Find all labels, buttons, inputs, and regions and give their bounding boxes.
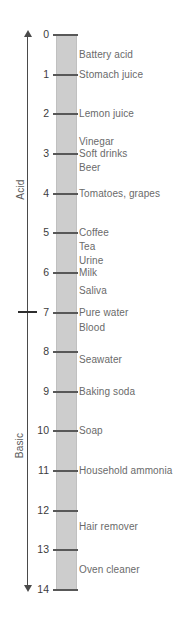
ph-tick-mark bbox=[53, 74, 78, 76]
ph-tick-mark bbox=[53, 391, 78, 393]
ph-tick-mark bbox=[53, 153, 78, 155]
substance-label: Milk bbox=[79, 267, 97, 278]
ph-tick-mark bbox=[53, 272, 78, 274]
ph-tick-mark bbox=[53, 193, 78, 195]
substance-label: Urine bbox=[79, 255, 103, 266]
substance-label: Blood bbox=[79, 322, 105, 333]
ph-tick-mark bbox=[53, 232, 78, 234]
ph-tick-label: 13 bbox=[37, 543, 49, 555]
substance-label: Beer bbox=[79, 162, 101, 173]
ph-tick-label: 8 bbox=[43, 345, 49, 357]
substance-label: Household ammonia bbox=[79, 465, 172, 476]
substance-label: Saliva bbox=[79, 285, 107, 296]
axis-region-label-acid-text: Acid bbox=[14, 179, 25, 199]
substance-label: Soft drinks bbox=[79, 148, 127, 159]
substance-label: Tea bbox=[79, 241, 95, 252]
ph-tick-label: 7 bbox=[43, 306, 49, 318]
ph-scale-diagram: Acid Basic 01234567891011121314 Battery … bbox=[0, 0, 187, 618]
substance-label: Lemon juice bbox=[79, 108, 134, 119]
substance-label: Baking soda bbox=[79, 386, 135, 397]
ph-tick-label: 9 bbox=[43, 385, 49, 397]
ph-tick-mark bbox=[53, 589, 78, 591]
ph-tick-mark bbox=[53, 312, 78, 314]
ph-tick-mark bbox=[53, 430, 78, 432]
neutral-point-marker bbox=[18, 311, 37, 313]
substance-label: Stomach juice bbox=[79, 69, 143, 80]
ph-tick-label: 1 bbox=[43, 68, 49, 80]
substance-label: Hair remover bbox=[79, 521, 138, 532]
ph-tick-mark bbox=[53, 351, 78, 353]
axis-arrow-down-icon bbox=[24, 585, 32, 592]
ph-tick-label: 4 bbox=[43, 187, 49, 199]
substance-label: Oven cleaner bbox=[79, 564, 140, 575]
ph-tick-label: 11 bbox=[38, 464, 49, 476]
axis-region-label-basic: Basic bbox=[0, 440, 40, 451]
ph-tick-label: 12 bbox=[37, 504, 49, 516]
ph-tick-label: 3 bbox=[43, 147, 49, 159]
substance-label: Battery acid bbox=[79, 49, 133, 60]
substance-label: Soap bbox=[79, 425, 103, 436]
ph-tick-label: 2 bbox=[43, 107, 49, 119]
axis-region-label-basic-text: Basic bbox=[14, 433, 25, 458]
ph-tick-label: 6 bbox=[43, 266, 49, 278]
axis-arrow-up-icon bbox=[24, 30, 32, 37]
substance-label: Vinegar bbox=[79, 136, 114, 147]
substance-label: Seawater bbox=[79, 354, 122, 365]
substance-label: Coffee bbox=[79, 227, 109, 238]
substance-label: Pure water bbox=[79, 307, 128, 318]
axis-region-label-acid: Acid bbox=[0, 184, 40, 195]
substance-label: Tomatoes, grapes bbox=[79, 188, 160, 199]
ph-tick-mark bbox=[53, 510, 78, 512]
ph-tick-label: 0 bbox=[43, 28, 49, 40]
ph-tick-label: 14 bbox=[37, 583, 49, 595]
ph-tick-label: 10 bbox=[37, 424, 49, 436]
ph-tick-label: 5 bbox=[43, 226, 49, 238]
ph-tick-mark bbox=[53, 549, 78, 551]
ph-tick-mark bbox=[53, 34, 78, 36]
ph-tick-mark bbox=[53, 470, 78, 472]
ph-tick-mark bbox=[53, 113, 78, 115]
